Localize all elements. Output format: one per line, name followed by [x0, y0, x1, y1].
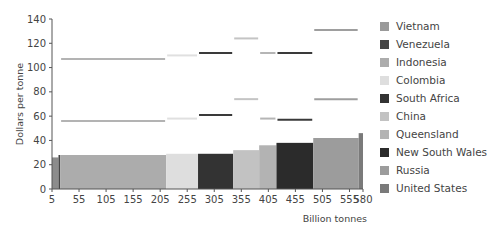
- x-tick-label: 455: [286, 194, 305, 205]
- bar-colombia: [166, 154, 198, 189]
- y-tick-label: 120: [27, 38, 46, 49]
- legend-label: United States: [396, 182, 467, 194]
- bar-vietnam: [52, 157, 58, 189]
- legend-swatch: [380, 22, 389, 31]
- legend-item-new-south-wales: New South Wales: [380, 143, 487, 161]
- bar-russia: [313, 138, 358, 189]
- x-tick-label: 105: [97, 194, 116, 205]
- legend-label: Venezuela: [396, 38, 450, 50]
- x-tick-label: 5: [49, 194, 55, 205]
- bar-new-south-wales: [276, 143, 313, 189]
- legend-item-indonesia: Indonesia: [380, 53, 487, 71]
- legend-item-china: China: [380, 107, 487, 125]
- bar-queensland: [259, 145, 276, 189]
- legend-label: New South Wales: [396, 146, 487, 158]
- legend-swatch: [380, 184, 389, 193]
- legend-swatch: [380, 40, 389, 49]
- y-tick-label: 40: [33, 135, 46, 146]
- legend-item-venezuela: Venezuela: [380, 35, 487, 53]
- legend-item-colombia: Colombia: [380, 71, 487, 89]
- legend-swatch: [380, 130, 389, 139]
- x-tick-label: 55: [73, 194, 86, 205]
- legend-swatch: [380, 94, 389, 103]
- legend-swatch: [380, 166, 389, 175]
- legend-swatch: [380, 148, 389, 157]
- legend: VietnamVenezuelaIndonesiaColombiaSouth A…: [380, 17, 487, 197]
- legend-label: Indonesia: [396, 56, 447, 68]
- legend-item-russia: Russia: [380, 161, 487, 179]
- y-tick-label: 100: [27, 62, 46, 73]
- y-tick-label: 0: [40, 184, 46, 195]
- y-axis-title: Dollars per tonne: [14, 63, 25, 145]
- legend-label: Russia: [396, 164, 430, 176]
- x-tick-label: 405: [259, 194, 278, 205]
- legend-swatch: [380, 76, 389, 85]
- x-tick-label: 305: [205, 194, 224, 205]
- legend-item-south-africa: South Africa: [380, 89, 487, 107]
- bar-united-states: [359, 133, 363, 189]
- x-tick-label: 205: [151, 194, 170, 205]
- legend-label: South Africa: [396, 92, 460, 104]
- legend-item-united-states: United States: [380, 179, 487, 197]
- legend-swatch: [380, 58, 389, 67]
- bars-group: [52, 133, 363, 189]
- legend-label: Vietnam: [396, 20, 440, 32]
- legend-swatch: [380, 112, 389, 121]
- x-axis-title: Billion tonnes: [303, 213, 367, 224]
- x-tick-label: 505: [313, 194, 332, 205]
- legend-item-queensland: Queensland: [380, 125, 487, 143]
- bar-china: [233, 150, 259, 189]
- y-tick-label: 80: [33, 86, 46, 97]
- legend-label: Colombia: [396, 74, 445, 86]
- bar-venezuela: [58, 155, 60, 189]
- x-tick-label: 580: [353, 194, 372, 205]
- legend-label: Queensland: [396, 128, 459, 140]
- price-lines-group: [61, 30, 358, 121]
- y-tick-label: 140: [27, 14, 46, 25]
- legend-item-vietnam: Vietnam: [380, 17, 487, 35]
- bar-south-africa: [198, 154, 233, 189]
- y-tick-label: 60: [33, 111, 46, 122]
- x-tick-label: 155: [124, 194, 143, 205]
- x-tick-label: 355: [232, 194, 251, 205]
- legend-label: China: [396, 110, 426, 122]
- y-tick-label: 20: [33, 159, 46, 170]
- bar-indonesia: [60, 155, 166, 189]
- x-tick-label: 255: [178, 194, 197, 205]
